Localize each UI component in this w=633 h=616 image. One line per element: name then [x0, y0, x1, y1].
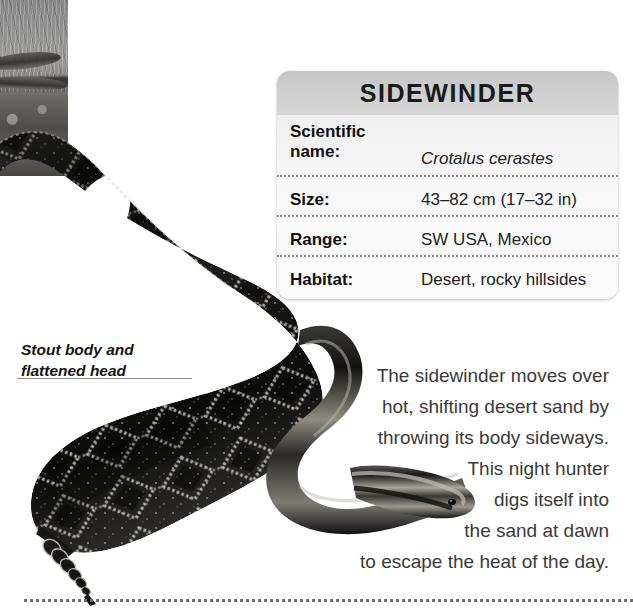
- callout-leader-line: [17, 378, 192, 379]
- photo-desert-ground: [0, 95, 68, 176]
- info-label-line1: Scientific: [290, 122, 366, 141]
- body-copy-line-5: digs itself into: [300, 484, 609, 515]
- callout-stout-body: Stout body and flattened head: [21, 340, 201, 381]
- body-copy-line-2: hot, shifting desert sand by: [300, 391, 609, 422]
- info-box-title: SIDEWINDER: [360, 79, 536, 108]
- callout-line1: Stout body and: [21, 340, 201, 361]
- info-value-range: SW USA, Mexico: [421, 230, 551, 250]
- info-label-range: Range:: [290, 230, 421, 250]
- info-label-size: Size:: [290, 190, 421, 210]
- info-row-scientific-name: Scientific name: Crotalus cerastes: [277, 115, 618, 177]
- info-row-habitat: Habitat: Desert, rocky hillsides: [277, 257, 618, 295]
- sidewinder-in-desert-photo: [0, 0, 68, 176]
- snake-rattle: [36, 526, 96, 606]
- body-copy: The sidewinder moves over hot, shifting …: [300, 360, 609, 577]
- info-row-range: Range: SW USA, Mexico: [277, 217, 618, 257]
- info-label-habitat: Habitat:: [290, 270, 421, 290]
- snake-body-gap: [57, 165, 142, 267]
- info-box-rows: Scientific name: Crotalus cerastes Size:…: [277, 115, 618, 299]
- info-row-size: Size: 43–82 cm (17–32 in): [277, 177, 618, 217]
- body-copy-line-3: throwing its body sideways.: [300, 422, 609, 453]
- info-value-size: 43–82 cm (17–32 in): [421, 190, 577, 210]
- info-label-scientific-name: Scientific name:: [290, 122, 421, 162]
- info-value-habitat: Desert, rocky hillsides: [421, 270, 586, 290]
- info-label-line2: name:: [290, 142, 340, 161]
- body-copy-line-6: the sand at dawn: [300, 515, 609, 546]
- info-value-scientific-name: Crotalus cerastes: [421, 149, 553, 170]
- species-info-box: SIDEWINDER Scientific name: Crotalus cer…: [277, 71, 618, 299]
- body-copy-line-4: This night hunter: [300, 453, 609, 484]
- bottom-dotted-rule: [24, 599, 633, 602]
- page-root: SIDEWINDER Scientific name: Crotalus cer…: [0, 0, 633, 616]
- body-copy-line-1: The sidewinder moves over: [300, 360, 609, 391]
- info-box-header: SIDEWINDER: [277, 71, 618, 115]
- body-copy-line-7: to escape the heat of the day.: [300, 546, 609, 577]
